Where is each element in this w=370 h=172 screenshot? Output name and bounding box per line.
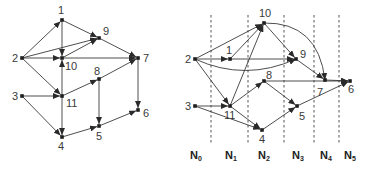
original-node-3: [20, 94, 24, 98]
layered-node-label-5: 5: [299, 110, 305, 122]
level-dividers: [211, 15, 339, 143]
original-graph: 1291078311654: [12, 4, 149, 152]
layered-node-label-3: 3: [185, 100, 191, 112]
layered-node-label-8: 8: [266, 69, 272, 81]
layered-node-7: [323, 78, 327, 82]
level-label-N3: N3: [292, 149, 304, 162]
original-node-label-4: 4: [58, 140, 64, 152]
original-edge-11-8: [62, 80, 97, 96]
level-labels: N0N1N2N3N4N5: [190, 149, 356, 162]
original-edge-9-7: [99, 38, 136, 57]
original-node-6: [136, 108, 140, 112]
layered-node-1: [228, 57, 232, 61]
layered-node-label-6: 6: [348, 83, 354, 95]
original-node-label-3: 3: [12, 90, 18, 102]
layered-edge-8-5: [264, 81, 295, 105]
layered-graph: 1021987631154 N0N1N2N3N4N5: [185, 7, 356, 162]
original-node-label-6: 6: [143, 107, 149, 119]
level-label-N1: N1: [225, 149, 237, 162]
layered-edge-10-7: [264, 23, 325, 80]
original-graph-edges: [22, 20, 138, 137]
layered-node-label-1: 1: [226, 44, 232, 56]
layered-node-5: [295, 104, 299, 108]
layered-node-label-2: 2: [185, 53, 191, 65]
layered-node-10: [262, 21, 266, 25]
layered-node-4: [260, 128, 264, 132]
layered-node-label-9: 9: [300, 48, 306, 60]
original-node-10: [60, 56, 64, 60]
original-node-label-2: 2: [12, 52, 18, 64]
original-node-2: [20, 56, 24, 60]
layered-edge-4-5: [262, 107, 295, 130]
original-node-4: [60, 135, 64, 139]
original-node-label-8: 8: [94, 65, 100, 77]
original-node-label-5: 5: [96, 130, 102, 142]
level-label-N4: N4: [320, 149, 332, 162]
layered-node-label-10: 10: [259, 7, 271, 19]
layered-node-3: [193, 104, 197, 108]
layered-edge-9-7: [296, 59, 323, 79]
level-label-N0: N0: [190, 149, 202, 162]
layered-node-label-4: 4: [259, 133, 265, 145]
original-edge-2-1: [22, 21, 61, 58]
original-edge-2-9: [22, 39, 97, 58]
level-label-N5: N5: [344, 149, 356, 162]
layered-graph-diagram: 1291078311654 1021987631154 N0N1N2N3N4N5: [0, 0, 370, 172]
original-node-11: [60, 94, 64, 98]
original-node-7: [136, 56, 140, 60]
original-node-label-9: 9: [103, 25, 109, 37]
layered-node-2: [193, 57, 197, 61]
original-node-label-11: 11: [66, 97, 77, 109]
original-edge-8-7: [99, 59, 136, 79]
original-node-label-10: 10: [65, 60, 77, 72]
original-edge-4-5: [62, 127, 97, 137]
original-edge-5-6: [99, 111, 136, 126]
layered-edge-10-9: [264, 23, 295, 58]
original-node-9: [97, 36, 101, 40]
original-graph-nodes: 1291078311654: [12, 4, 149, 152]
layered-node-11: [228, 104, 232, 108]
original-edge-3-4: [22, 96, 61, 136]
layered-node-9: [294, 57, 298, 61]
layered-node-label-11: 11: [224, 109, 235, 121]
layered-edge-1-10: [230, 24, 263, 59]
original-node-label-1: 1: [58, 4, 64, 16]
layered-node-label-7: 7: [317, 86, 323, 98]
original-edge-2-11: [22, 58, 61, 95]
original-edge-1-9: [62, 20, 97, 37]
original-node-5: [97, 124, 101, 128]
original-node-8: [97, 77, 101, 81]
original-edge-10-9: [62, 39, 97, 58]
level-label-N2: N2: [258, 149, 270, 162]
original-node-label-7: 7: [143, 52, 149, 64]
original-node-1: [60, 18, 64, 22]
